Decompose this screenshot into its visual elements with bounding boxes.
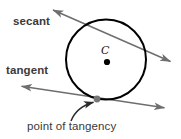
point-of-tangency-label: point of tangency [27, 121, 116, 133]
center-label: C [101, 45, 109, 56]
tangent-label: tangent [6, 65, 48, 77]
center-point-dot [104, 59, 110, 65]
secant-line [53, 10, 171, 62]
tangency-point-dot [94, 96, 101, 103]
diagram-canvas: secant tangent point of tangency C [0, 0, 181, 139]
pointer-arrow-icon [71, 102, 94, 121]
secant-label: secant [13, 16, 50, 28]
